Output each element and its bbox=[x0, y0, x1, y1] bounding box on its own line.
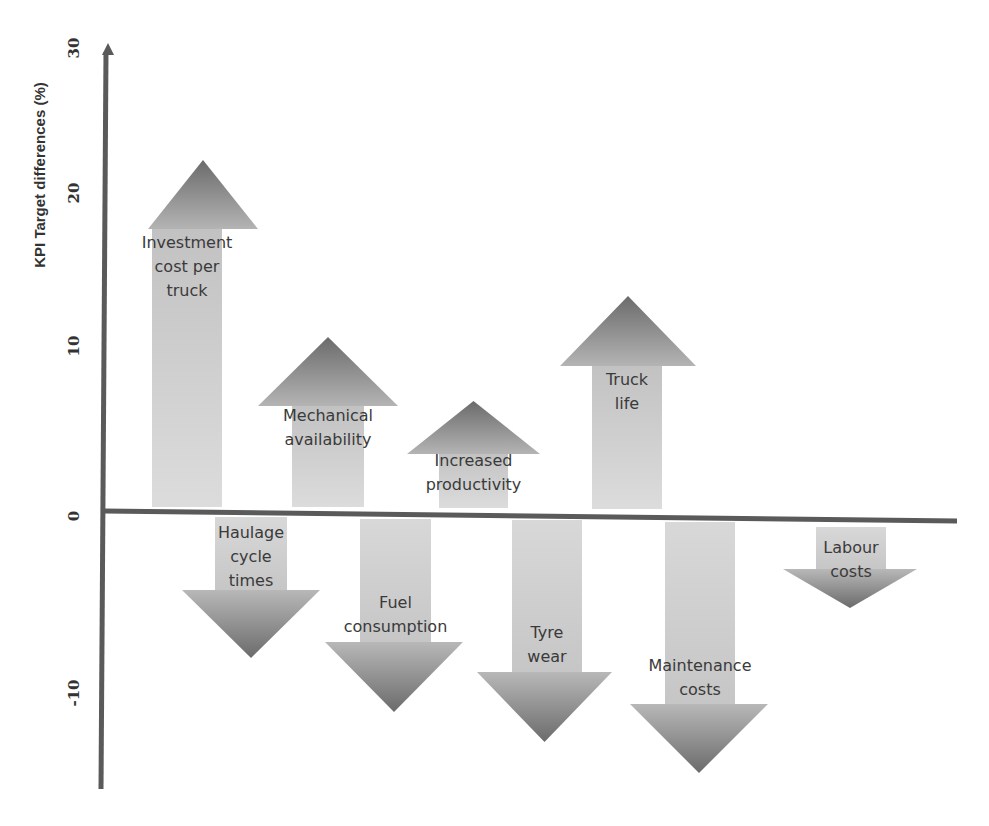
arrow-up-icon bbox=[560, 296, 696, 366]
arrow-down-icon bbox=[325, 642, 463, 712]
arrow-label: cycle bbox=[230, 547, 271, 566]
arrow-label: availability bbox=[284, 430, 371, 449]
arrow-up-icon bbox=[407, 401, 540, 454]
y-axis-arrowhead-icon bbox=[102, 43, 114, 55]
arrow-label: Maintenance bbox=[648, 656, 751, 675]
arrow-fuel: Fuelconsumption bbox=[325, 519, 463, 712]
arrow-label: times bbox=[229, 571, 273, 590]
arrow-labour: Labourcosts bbox=[783, 527, 917, 608]
arrow-investment: Investmentcost pertruck bbox=[142, 160, 258, 507]
arrow-label: wear bbox=[527, 647, 567, 666]
kpi-arrow-chart: Investmentcost pertruckHaulagecycletimes… bbox=[0, 0, 989, 826]
arrow-label: costs bbox=[830, 562, 872, 581]
arrow-down-icon bbox=[630, 704, 768, 773]
arrow-label: consumption bbox=[344, 617, 448, 636]
arrow-label: Mechanical bbox=[283, 406, 373, 425]
arrow-shaft bbox=[665, 522, 735, 704]
y-axis-line bbox=[101, 52, 106, 789]
arrow-down-icon bbox=[182, 590, 320, 658]
arrow-label: truck bbox=[166, 281, 208, 300]
arrow-label: Fuel bbox=[379, 593, 412, 612]
arrow-tyre: Tyrewear bbox=[477, 520, 612, 742]
arrow-label: productivity bbox=[426, 475, 522, 494]
y-axis-ticks: 3020100-10 bbox=[65, 38, 83, 707]
arrow-label: cost per bbox=[155, 257, 220, 276]
y-tick-label: 10 bbox=[65, 336, 83, 357]
y-axis-title: KPI Target differences (%) bbox=[31, 82, 48, 268]
y-tick-label: 30 bbox=[65, 38, 83, 59]
arrow-up-icon bbox=[258, 337, 398, 406]
arrow-label: Truck bbox=[605, 370, 649, 389]
arrow-label: Tyre bbox=[530, 623, 564, 642]
arrow-label: costs bbox=[679, 680, 721, 699]
arrow-up-icon bbox=[148, 160, 258, 229]
arrow-label: Investment bbox=[142, 233, 233, 252]
arrow-maintenance: Maintenancecosts bbox=[630, 522, 768, 773]
arrow-productivity: Increasedproductivity bbox=[407, 401, 540, 508]
arrow-haulage: Haulagecycletimes bbox=[182, 517, 320, 658]
arrow-mechanical: Mechanicalavailability bbox=[258, 337, 398, 507]
arrow-down-icon bbox=[477, 672, 612, 742]
arrow-label: life bbox=[615, 394, 639, 413]
arrow-truck_life: Trucklife bbox=[560, 296, 696, 509]
y-tick-label: -10 bbox=[65, 679, 83, 706]
arrows-layer: Investmentcost pertruckHaulagecycletimes… bbox=[142, 160, 917, 773]
arrow-label: Labour bbox=[823, 538, 879, 557]
arrow-label: Increased bbox=[435, 451, 513, 470]
y-tick-label: 0 bbox=[65, 511, 83, 521]
y-tick-label: 20 bbox=[65, 183, 83, 204]
arrow-label: Haulage bbox=[218, 523, 284, 542]
